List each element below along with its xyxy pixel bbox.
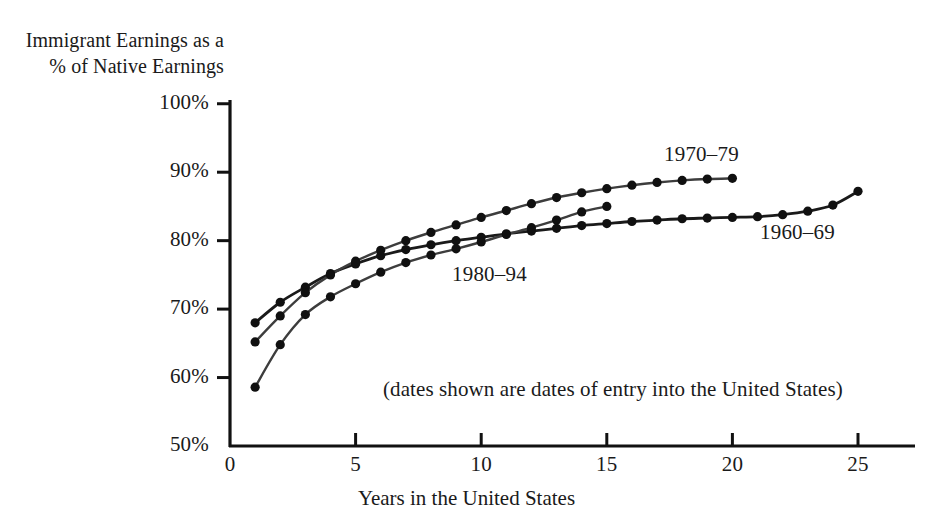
data-point [401,245,410,254]
data-point [426,240,435,249]
data-point [401,236,410,245]
data-point [351,257,360,266]
data-point [376,268,385,277]
data-point [326,292,335,301]
data-point [426,250,435,259]
data-point [251,337,260,346]
y-tick-marks [217,104,230,378]
data-point [652,216,661,225]
data-point [577,188,586,197]
series-label-1970–79: 1970–79 [664,142,739,167]
data-point [276,311,285,320]
x-tick-label: 20 [708,452,756,477]
data-point [552,193,561,202]
data-point [502,206,511,215]
data-point [853,187,862,196]
data-point [251,383,260,392]
x-tick-marks [356,433,858,446]
series-line-2 [255,178,732,342]
y-tick-label: 100% [123,90,209,115]
data-point [477,237,486,246]
series-label-1960–69: 1960–69 [760,220,835,245]
data-point [602,219,611,228]
data-point [426,228,435,237]
data-point [828,200,837,209]
chart-figure: Immigrant Earnings as a % of Native Earn… [0,0,933,528]
data-point [301,288,310,297]
data-point [552,224,561,233]
data-point [803,207,812,216]
data-point [301,310,310,319]
x-tick-label: 0 [206,452,254,477]
data-point [703,174,712,183]
x-tick-label: 5 [332,452,380,477]
data-point [577,207,586,216]
data-point [678,214,687,223]
data-point [602,184,611,193]
x-tick-label: 10 [457,452,505,477]
data-point [326,270,335,279]
y-tick-label: 60% [123,364,209,389]
data-point [451,236,460,245]
y-tick-label: 50% [123,432,209,457]
data-point [577,221,586,230]
data-point [728,213,737,222]
data-point [728,174,737,183]
chart-note: (dates shown are dates of entry into the… [383,377,843,402]
data-point [276,340,285,349]
data-point [552,216,561,225]
series-line-1 [255,191,858,322]
data-point [527,199,536,208]
x-tick-label: 15 [583,452,631,477]
y-tick-label: 80% [123,227,209,252]
x-axis-title: Years in the United States [0,486,933,511]
data-point [527,223,536,232]
data-point [602,202,611,211]
data-point [376,246,385,255]
data-point [477,213,486,222]
data-point [627,181,636,190]
data-point [652,178,661,187]
data-point [678,176,687,185]
y-tick-label: 70% [123,295,209,320]
data-point [276,298,285,307]
data-point [401,258,410,267]
data-point [703,213,712,222]
series-lines-group [255,178,858,387]
series-label-1980–94: 1980–94 [452,262,527,287]
y-tick-label: 90% [123,158,209,183]
data-point [451,220,460,229]
series-markers-group [251,174,863,392]
data-point [502,230,511,239]
data-point [627,217,636,226]
data-point [451,244,460,253]
data-point [251,318,260,327]
data-point [351,279,360,288]
data-point [778,210,787,219]
x-tick-label: 25 [834,452,882,477]
